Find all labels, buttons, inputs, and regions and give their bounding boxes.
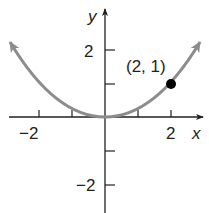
x-tick-label-2: 2 <box>166 124 175 143</box>
point-2-1 <box>166 79 176 89</box>
y-tick-label-neg2: −2 <box>76 176 95 195</box>
y-tick-label-2: 2 <box>84 42 93 61</box>
point-label: (2, 1) <box>126 57 166 76</box>
x-axis-label: x <box>191 124 201 143</box>
y-axis-label: y <box>87 7 98 26</box>
x-tick-label-neg2: −2 <box>19 124 38 143</box>
parabola-graph: y x −2 2 2 −2 (2, 1) <box>0 0 209 213</box>
parabola-curve <box>105 42 200 117</box>
